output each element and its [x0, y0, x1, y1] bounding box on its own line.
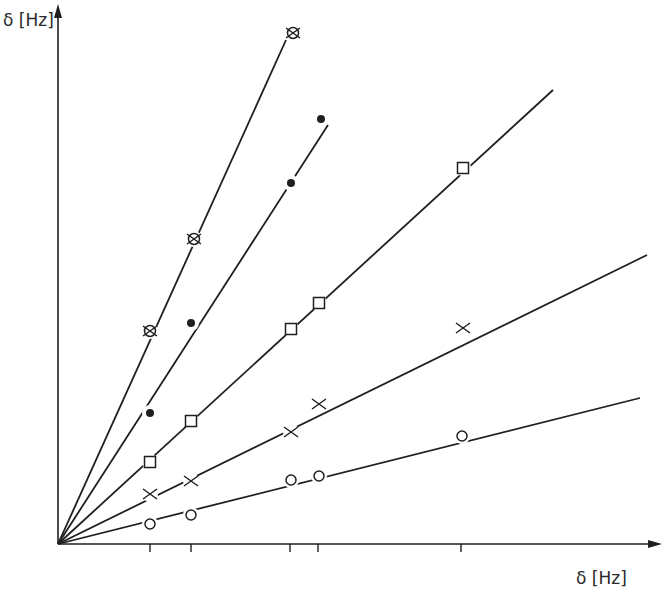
- open-circle-marker-icon: [283, 472, 299, 488]
- x-ticks: [150, 544, 461, 552]
- fit-line-square: [58, 90, 553, 544]
- filled-circle-marker-icon: [313, 111, 329, 127]
- square-marker-icon: [455, 160, 471, 176]
- x-marker-icon: [142, 486, 158, 502]
- square-marker-icon: [311, 295, 327, 311]
- x-axis-label: δ [Hz]: [576, 568, 627, 588]
- chart: δ [Hz] δ [Hz]: [0, 0, 669, 603]
- x-marker-icon: [283, 424, 299, 440]
- open-circle-marker-icon: [311, 468, 327, 484]
- x-marker-icon: [311, 396, 327, 412]
- filled-circle-marker-icon: [142, 405, 158, 421]
- data-markers: [142, 25, 471, 532]
- open-circle-marker-icon: [454, 428, 470, 444]
- y-axis-arrow-icon: [54, 4, 62, 18]
- x-marker-icon: [455, 320, 471, 336]
- square-marker-icon: [283, 321, 299, 337]
- open-circle-marker-icon: [183, 507, 199, 523]
- x-axis-arrow-icon: [648, 540, 662, 548]
- filled-circle-marker-icon: [283, 175, 299, 191]
- square-marker-icon: [183, 413, 199, 429]
- filled-circle-marker-icon: [183, 315, 199, 331]
- crossed-circle-marker-icon: [285, 25, 301, 41]
- y-axis-label: δ [Hz]: [3, 10, 54, 30]
- fit-line-crossed-circle: [58, 40, 286, 544]
- crossed-circle-marker-icon: [186, 231, 202, 247]
- open-circle-marker-icon: [142, 516, 158, 532]
- crossed-circle-marker-icon: [142, 323, 158, 339]
- square-marker-icon: [142, 454, 158, 470]
- x-marker-icon: [183, 473, 199, 489]
